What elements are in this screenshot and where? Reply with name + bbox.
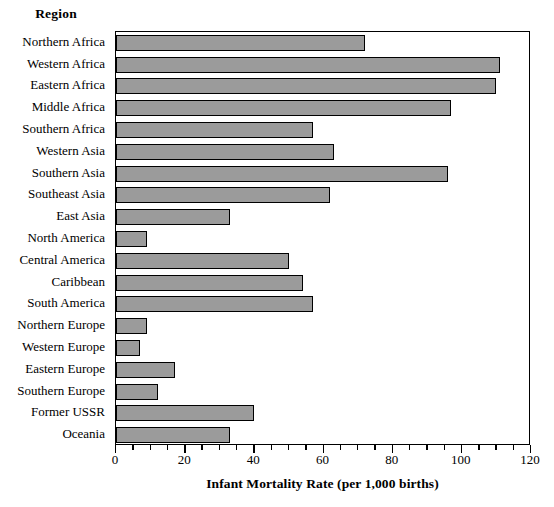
minor-tick: [409, 445, 410, 450]
bar: [116, 187, 330, 203]
minor-tick: [201, 445, 202, 450]
category-label: Oceania: [62, 427, 105, 441]
x-axis-title: Infant Mortality Rate (per 1,000 births): [115, 476, 530, 492]
bar: [116, 340, 140, 356]
minor-tick: [271, 445, 272, 450]
bar: [116, 57, 500, 73]
bar: [116, 78, 496, 94]
bar: [116, 296, 313, 312]
minor-tick: [305, 445, 306, 450]
category-label: Western Africa: [27, 57, 105, 71]
x-tick-label: 100: [451, 452, 471, 468]
bar: [116, 405, 254, 421]
category-label: Former USSR: [31, 405, 105, 419]
category-label: Southern Africa: [22, 122, 105, 136]
category-label: Western Europe: [22, 340, 105, 354]
category-label-column: Northern AfricaWestern AfricaEastern Afr…: [0, 31, 110, 445]
minor-tick: [495, 445, 496, 450]
minor-tick: [444, 445, 445, 450]
bar: [116, 122, 313, 138]
category-label: Central America: [19, 253, 105, 267]
category-label: Eastern Europe: [25, 362, 105, 376]
bar: [116, 100, 451, 116]
bars-layer: [116, 32, 529, 444]
bar: [116, 166, 448, 182]
minor-tick: [132, 445, 133, 450]
category-label: Southern Europe: [17, 384, 105, 398]
category-label: Western Asia: [36, 144, 105, 158]
x-tick-label: 80: [385, 452, 398, 468]
region-column-title: Region: [0, 6, 112, 22]
bar: [116, 362, 175, 378]
bar: [116, 35, 365, 51]
x-tick-label: 60: [316, 452, 329, 468]
minor-tick: [150, 445, 151, 450]
category-label: Caribbean: [52, 275, 105, 289]
minor-tick: [219, 445, 220, 450]
minor-tick: [513, 445, 514, 450]
bar: [116, 253, 289, 269]
category-label: East Asia: [56, 209, 105, 223]
bar: [116, 275, 303, 291]
x-tick-label: 20: [178, 452, 191, 468]
infant-mortality-bar-chart: Region Northern AfricaWestern AfricaEast…: [0, 0, 554, 507]
category-label: Southeast Asia: [28, 187, 105, 201]
x-tick-label: 0: [112, 452, 119, 468]
category-label: South America: [27, 296, 105, 310]
x-axis-tick-labels: 020406080100120: [0, 452, 554, 472]
category-label: Southern Asia: [32, 166, 105, 180]
category-label: Northern Africa: [22, 35, 105, 49]
minor-tick: [340, 445, 341, 450]
bar: [116, 231, 147, 247]
category-label: Northern Europe: [17, 318, 105, 332]
bar: [116, 427, 230, 443]
x-tick-label: 120: [520, 452, 540, 468]
bar: [116, 384, 158, 400]
bar: [116, 209, 230, 225]
bar: [116, 144, 334, 160]
minor-tick: [357, 445, 358, 450]
minor-tick: [426, 445, 427, 450]
plot-area: [115, 31, 530, 445]
minor-tick: [478, 445, 479, 450]
minor-tick: [167, 445, 168, 450]
category-label: Eastern Africa: [30, 78, 105, 92]
minor-tick: [288, 445, 289, 450]
bar: [116, 318, 147, 334]
category-label: North America: [27, 231, 105, 245]
x-tick-label: 40: [247, 452, 260, 468]
minor-tick: [374, 445, 375, 450]
minor-tick: [236, 445, 237, 450]
category-label: Middle Africa: [32, 100, 105, 114]
